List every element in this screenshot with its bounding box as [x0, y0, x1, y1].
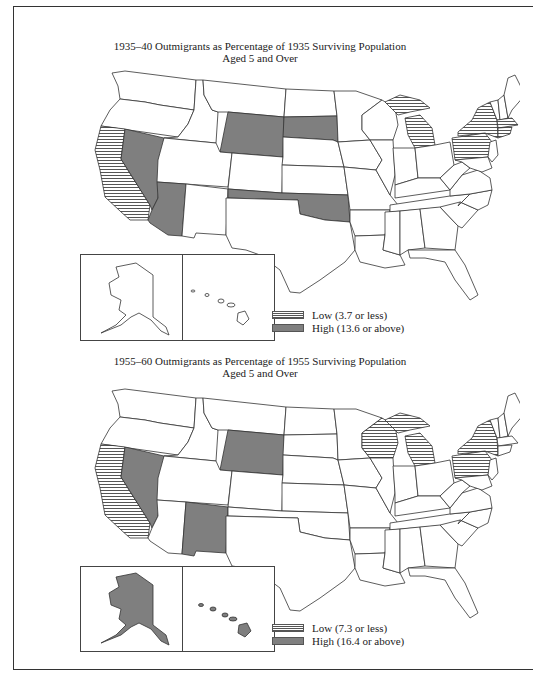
state-nd — [284, 89, 337, 117]
state-ks — [282, 165, 348, 195]
state-co — [228, 153, 283, 193]
state-ct — [498, 445, 512, 456]
state-nj — [488, 140, 498, 162]
state-mi — [405, 433, 435, 466]
map2-legend-high: High (16.4 or above) — [272, 635, 404, 647]
state-mt — [203, 80, 286, 117]
gray-swatch-icon — [272, 637, 304, 645]
map2-title-line1: 1955–60 Outmigrants as Percentage of 195… — [0, 355, 520, 367]
state-ct — [498, 127, 512, 138]
map1-legend: Low (3.7 or less) High (13.6 or above) — [272, 309, 404, 335]
gray-swatch-icon — [272, 324, 304, 332]
state-ma — [497, 118, 518, 128]
state-pa — [452, 133, 492, 160]
state-nebraska — [282, 455, 344, 485]
state-ks — [282, 483, 348, 513]
state-ma — [497, 436, 518, 446]
map1-legend-high-label: High (13.6 or above) — [312, 322, 404, 334]
state-nd — [284, 407, 337, 435]
state-ar — [350, 210, 390, 236]
map2-legend: Low (7.3 or less) High (16.4 or above) — [272, 622, 404, 648]
map1-title-line1: 1935–40 Outmigrants as Percentage of 193… — [0, 40, 520, 52]
state-ms — [383, 529, 400, 573]
state-mi — [405, 115, 435, 148]
map2-title: 1955–60 Outmigrants as Percentage of 195… — [0, 355, 520, 379]
state-ak — [101, 263, 169, 335]
state-ms — [383, 211, 400, 255]
map1-alaska-inset — [80, 254, 183, 341]
state-ar — [350, 528, 390, 554]
state-hi — [191, 290, 249, 325]
state-co — [228, 471, 283, 511]
map1-legend-low: Low (3.7 or less) — [272, 309, 404, 321]
state-mt — [203, 398, 286, 435]
map2-hawaii-inset — [183, 566, 275, 652]
map1-legend-low-label: Low (3.7 or less) — [312, 309, 387, 321]
state-nj — [488, 458, 498, 480]
map1-legend-high: High (13.6 or above) — [272, 322, 404, 334]
hatch-swatch-icon — [272, 311, 304, 319]
state-nm — [182, 502, 228, 556]
state-fl — [408, 568, 478, 618]
state-ut — [157, 138, 232, 187]
state-wy — [220, 112, 284, 157]
state-nm — [182, 184, 228, 238]
map2-legend-low-label: Low (7.3 or less) — [312, 622, 387, 634]
state-fl — [408, 250, 478, 300]
state-ut — [157, 456, 232, 505]
state-ak — [101, 573, 169, 645]
map2-legend-high-label: High (16.4 or above) — [312, 635, 404, 647]
state-nebraska — [282, 137, 344, 167]
map2-legend-low: Low (7.3 or less) — [272, 622, 404, 634]
map1-hawaii-inset — [183, 254, 275, 341]
state-wy — [220, 430, 284, 475]
map2-alaska-inset — [80, 566, 183, 652]
state-hi — [199, 604, 252, 638]
state-pa — [452, 451, 492, 478]
hatch-swatch-icon — [272, 624, 304, 632]
